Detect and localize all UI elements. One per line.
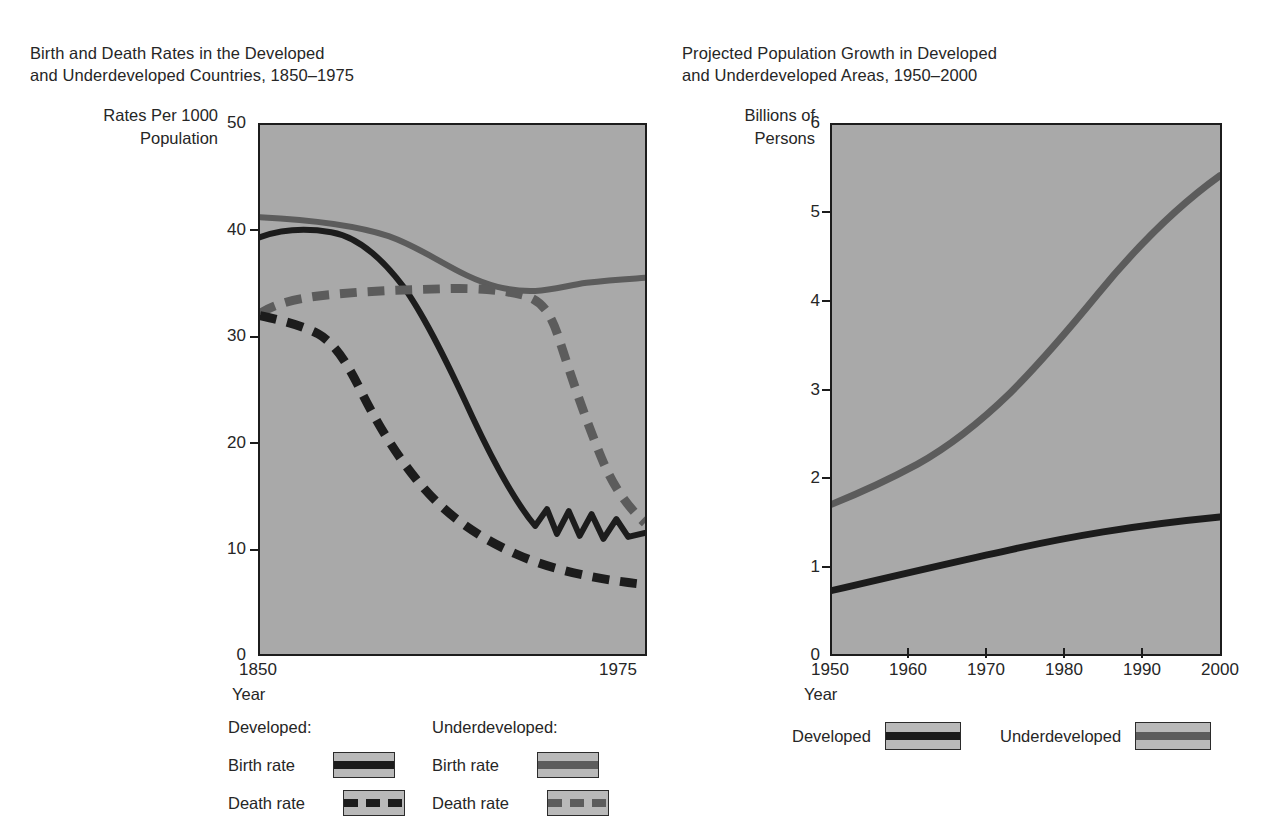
series-developed-population: [832, 517, 1220, 590]
right-ytick-3: 3: [780, 380, 820, 400]
right-chart-title: Projected Population Growth in Developed…: [682, 42, 1112, 86]
left-chart-title: Birth and Death Rates in the Developed a…: [30, 42, 460, 86]
left-xtick-1850: 1850: [228, 660, 288, 680]
right-plot-area: [830, 123, 1222, 656]
left-ytick-40: 40: [206, 220, 246, 240]
legend-swatch-developed-death-rate: [343, 790, 405, 816]
right-ytick-2: 2: [780, 468, 820, 488]
right-xtickmark-1990: [1141, 648, 1143, 658]
legend-head-developed: Developed:: [228, 718, 311, 737]
right-xtickmark-1980: [1063, 648, 1065, 658]
right-x-axis-name: Year: [804, 685, 837, 704]
right-ytick-1: 1: [780, 557, 820, 577]
legend-label-developed-death-rate: Death rate: [228, 794, 305, 813]
left-plot-area: [258, 123, 647, 656]
right-ytick-4: 4: [780, 291, 820, 311]
right-xtick-2000: 2000: [1190, 660, 1250, 680]
right-xtick-1980: 1980: [1034, 660, 1094, 680]
left-ytick-10: 10: [206, 539, 246, 559]
legend-label-developed-population: Developed: [792, 727, 871, 746]
legend-item-underdeveloped-death-rate[interactable]: Death rate: [432, 790, 609, 816]
right-xtick-1990: 1990: [1112, 660, 1172, 680]
left-chart-panel: Birth and Death Rates in the Developed a…: [0, 0, 660, 828]
legend-item-underdeveloped-population[interactable]: Underdeveloped: [1000, 722, 1211, 750]
legend-swatch-developed-population: [885, 722, 961, 750]
right-xtick-1970: 1970: [956, 660, 1016, 680]
legend-label-developed-birth-rate: Birth rate: [228, 756, 295, 775]
legend-swatch-underdeveloped-death-rate: [547, 790, 609, 816]
series-developed-death-rate: [260, 316, 645, 585]
legend-item-developed-population[interactable]: Developed: [792, 722, 961, 750]
left-ytick-50: 50: [206, 113, 246, 133]
right-ytick-5: 5: [780, 202, 820, 222]
series-underdeveloped-death-rate: [260, 289, 645, 523]
left-ytick-30: 30: [206, 326, 246, 346]
series-underdeveloped-population: [832, 176, 1220, 505]
legend-label-underdeveloped-death-rate: Death rate: [432, 794, 509, 813]
left-y-axis-caption: Rates Per 1000 Population: [18, 104, 218, 150]
legend-label-underdeveloped-birth-rate: Birth rate: [432, 756, 499, 775]
right-xtick-1950: 1950: [800, 660, 860, 680]
legend-label-underdeveloped-population: Underdeveloped: [1000, 727, 1121, 746]
legend-swatch-developed-birth-rate: [333, 752, 395, 778]
legend-head-underdeveloped: Underdeveloped:: [432, 718, 558, 737]
left-x-axis-name: Year: [232, 685, 265, 704]
right-ytick-6: 6: [780, 113, 820, 133]
left-xtick-1975: 1975: [588, 660, 648, 680]
legend-swatch-underdeveloped-population: [1135, 722, 1211, 750]
left-ytick-20: 20: [206, 433, 246, 453]
legend-item-underdeveloped-birth-rate[interactable]: Birth rate: [432, 752, 599, 778]
legend-item-developed-death-rate[interactable]: Death rate: [228, 790, 405, 816]
right-xtickmark-1960: [907, 648, 909, 658]
right-xtick-1960: 1960: [878, 660, 938, 680]
right-xtickmark-1970: [985, 648, 987, 658]
series-developed-birth-rate: [260, 230, 645, 539]
legend-item-developed-birth-rate[interactable]: Birth rate: [228, 752, 395, 778]
legend-swatch-underdeveloped-birth-rate: [537, 752, 599, 778]
